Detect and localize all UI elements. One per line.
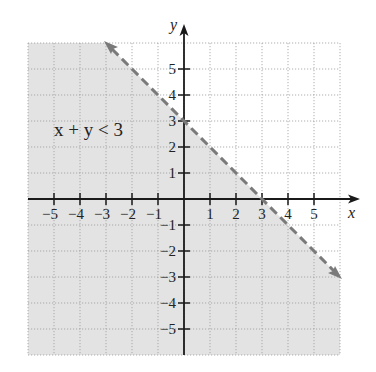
x-tick-label: 2 xyxy=(232,206,240,222)
x-tick-label: 5 xyxy=(310,206,318,222)
y-tick-label: 1 xyxy=(169,165,177,181)
y-tick-label: −5 xyxy=(160,321,176,337)
inequality-label: x + y < 3 xyxy=(54,119,123,140)
x-tick-label: −4 xyxy=(68,206,84,222)
y-tick-label: −3 xyxy=(160,269,176,285)
inequality-graph: −5−4−3−2−112345−5−4−3−2−112345 x y x + y… xyxy=(0,0,376,372)
x-tick-label: 1 xyxy=(206,206,214,222)
y-tick-label: −4 xyxy=(160,295,176,311)
y-tick-label: −1 xyxy=(160,217,176,233)
x-tick-label: 3 xyxy=(258,206,266,222)
y-tick-label: 5 xyxy=(169,61,177,77)
x-axis-label: x xyxy=(347,204,355,221)
y-tick-label: −2 xyxy=(160,243,176,259)
x-tick-label: −2 xyxy=(120,206,136,222)
y-tick-label: 3 xyxy=(169,113,177,129)
x-tick-label: −5 xyxy=(42,206,58,222)
x-tick-label: 4 xyxy=(284,206,292,222)
y-axis-label: y xyxy=(168,16,178,34)
y-tick-label: 4 xyxy=(169,87,177,103)
x-tick-label: −3 xyxy=(94,206,110,222)
y-tick-label: 2 xyxy=(169,139,177,155)
